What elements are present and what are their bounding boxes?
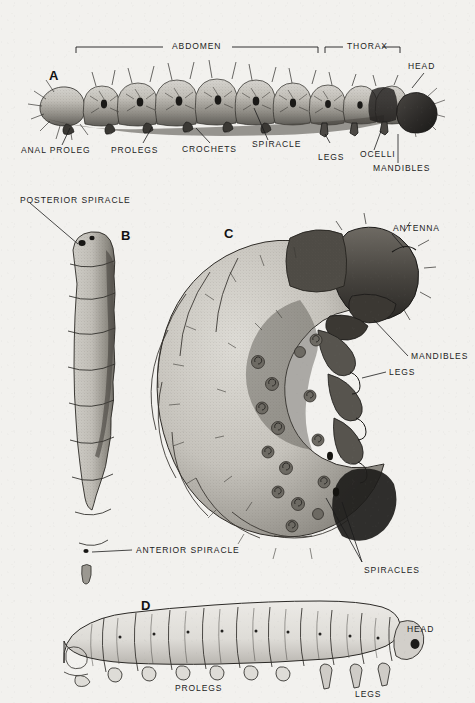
- label-legs-c: LEGS: [389, 368, 415, 377]
- figure-letter-d: D: [141, 599, 150, 612]
- figure-b-maggot: [30, 203, 132, 584]
- label-anal-proleg: ANAL PROLEG: [21, 146, 91, 155]
- label-head-a: HEAD: [408, 62, 435, 71]
- plate-artwork: [0, 0, 475, 703]
- label-thorax: THORAX: [347, 42, 388, 51]
- label-head-d: HEAD: [407, 625, 434, 634]
- label-abdomen: ABDOMEN: [172, 42, 221, 51]
- label-mandibles-c: MANDIBLES: [411, 352, 468, 361]
- label-legs-a: LEGS: [318, 153, 344, 162]
- label-ocelli: OCELLI: [360, 150, 396, 159]
- label-anterior-spiracle: ANTERIOR SPIRACLE: [136, 546, 240, 555]
- label-posterior-spiracle: POSTERIOR SPIRACLE: [20, 196, 131, 205]
- label-antenna: ANTENNA: [393, 224, 440, 233]
- label-legs-d: LEGS: [355, 690, 381, 699]
- caterpillar-body: [28, 60, 445, 140]
- figure-letter-c: C: [224, 227, 233, 240]
- illustration-plate: A B C D ABDOMEN THORAX HEAD ANAL PROLEG …: [0, 0, 475, 703]
- label-spiracles: SPIRACLES: [364, 566, 420, 575]
- figure-letter-b: B: [121, 229, 130, 242]
- figure-c-grub: [151, 213, 436, 562]
- label-spiracle: SPIRACLE: [252, 140, 301, 149]
- label-crochets: CROCHETS: [182, 145, 237, 154]
- label-mandibles-a: MANDIBLES: [373, 164, 430, 173]
- label-prolegs-d: PROLEGS: [175, 684, 222, 693]
- figure-d-larva: [64, 601, 424, 689]
- label-prolegs-a: PROLEGS: [111, 146, 158, 155]
- figure-letter-a: A: [49, 69, 58, 82]
